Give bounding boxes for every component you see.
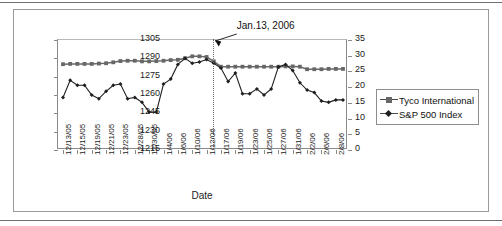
y-axis-left-tick — [54, 95, 58, 96]
y-axis-left-label: 1305 — [126, 34, 160, 43]
series-marker — [90, 62, 94, 66]
y-axis-left-tick — [54, 77, 58, 78]
y-axis-right-tick — [348, 56, 352, 57]
series-marker — [97, 62, 101, 66]
y-axis-left-label: 1245 — [126, 107, 160, 116]
series-marker — [320, 67, 324, 71]
x-axis-label: 12/21/05 — [108, 124, 116, 155]
y-axis-right-label: 30 — [355, 50, 379, 59]
series-marker — [341, 67, 345, 71]
series-marker — [269, 65, 273, 69]
series-marker — [169, 58, 173, 62]
y-axis-right-tick — [348, 87, 352, 88]
series-marker — [197, 60, 201, 64]
legend-label-sp500: S&P 500 Index — [398, 109, 462, 120]
y-axis-right-label: 10 — [355, 113, 379, 122]
y-axis-left-label: 1275 — [126, 71, 160, 80]
x-axis-label: 12/30/05 — [151, 124, 159, 155]
series-marker — [240, 92, 244, 96]
x-axis-label: 12/19/05 — [94, 124, 102, 155]
x-axis-label: 1/12/06 — [209, 128, 217, 155]
series-marker — [119, 59, 123, 63]
x-axis-label: 12/13/05 — [65, 124, 73, 155]
x-axis-label: 2/8/06 — [338, 133, 346, 155]
y-axis-left-tick — [54, 40, 58, 41]
legend-marker-diamond-icon — [380, 108, 398, 120]
series-marker — [334, 67, 338, 71]
x-axis-label: 1/10/06 — [194, 128, 202, 155]
x-axis-label: 1/19/06 — [237, 128, 245, 155]
series-marker — [111, 60, 115, 64]
event-annotation-label: Jan.13, 2006 — [237, 20, 295, 31]
y-axis-left-tick — [54, 58, 58, 59]
y-axis-right-tick — [348, 150, 352, 151]
y-axis-right-label: 5 — [355, 128, 379, 137]
series-marker — [83, 62, 87, 66]
x-axis-label: 1/27/06 — [280, 128, 288, 155]
series-marker — [255, 65, 259, 69]
series-marker — [176, 58, 180, 62]
series-marker — [298, 65, 302, 69]
y-axis-left-label: 1290 — [126, 52, 160, 61]
y-axis-right-label: 20 — [355, 81, 379, 90]
series-marker — [104, 61, 108, 65]
x-axis-label: 1/23/06 — [252, 128, 260, 155]
series-marker — [226, 65, 230, 69]
y-axis-left-tick — [54, 113, 58, 114]
chart-area: Jan.13, 2006 Date Tyco International S&P… — [14, 10, 490, 213]
y-axis-left-label: 1260 — [126, 89, 160, 98]
series-marker — [198, 54, 202, 58]
y-axis-right-tick — [348, 119, 352, 120]
x-axis-label: 2/2/06 — [309, 133, 317, 155]
x-axis-label: 1/6/06 — [180, 133, 188, 155]
series-marker — [341, 98, 345, 102]
y-axis-right-tick — [348, 134, 352, 135]
series-marker — [334, 98, 338, 102]
figure-page: Jan.13, 2006 Date Tyco International S&P… — [0, 0, 502, 226]
x-axis-title: Date — [57, 190, 347, 201]
series-marker — [233, 65, 237, 69]
series-marker — [305, 67, 309, 71]
series-marker — [327, 100, 331, 104]
x-axis-label: 1/31/06 — [295, 128, 303, 155]
x-axis-label: 1/17/06 — [223, 128, 231, 155]
series-marker — [262, 65, 266, 69]
series-marker — [68, 62, 72, 66]
series-marker — [190, 54, 194, 58]
series-marker — [241, 65, 245, 69]
y-axis-right-tick — [348, 40, 352, 41]
legend-item-sp500[interactable]: S&P 500 Index — [380, 107, 474, 121]
y-axis-right-label: 0 — [355, 144, 379, 153]
y-axis-right-label: 15 — [355, 97, 379, 106]
chart-legend: Tyco International S&P 500 Index — [376, 89, 479, 125]
x-axis-label: 1/4/06 — [166, 133, 174, 155]
page-rule-bottom — [0, 220, 502, 221]
chart-figure-box: Jan.13, 2006 Date Tyco International S&P… — [13, 9, 489, 212]
legend-marker-square-icon — [380, 94, 398, 106]
series-marker — [291, 65, 295, 69]
x-axis-label: 12/15/05 — [79, 124, 87, 155]
series-marker — [75, 62, 79, 66]
page-rule-top — [0, 2, 502, 3]
y-axis-right-label: 25 — [355, 65, 379, 74]
x-axis-label: 1/25/06 — [266, 128, 274, 155]
y-axis-left-tick — [54, 132, 58, 133]
series-marker — [61, 95, 65, 99]
series-marker — [327, 67, 331, 71]
series-marker — [248, 65, 252, 69]
y-axis-right-label: 35 — [355, 34, 379, 43]
legend-item-tyco[interactable]: Tyco International — [380, 93, 474, 107]
y-axis-left-tick — [54, 150, 58, 151]
x-axis-label: 12/23/05 — [122, 124, 130, 155]
x-axis-label: 12/28/05 — [137, 124, 145, 155]
x-axis-label: 2/6/06 — [323, 133, 331, 155]
series-marker — [312, 67, 316, 71]
series-marker — [61, 62, 65, 66]
y-axis-right-tick — [348, 71, 352, 72]
series-marker — [162, 59, 166, 63]
series-marker — [118, 82, 122, 86]
y-axis-right-tick — [348, 103, 352, 104]
legend-label-tyco: Tyco International — [398, 95, 474, 106]
